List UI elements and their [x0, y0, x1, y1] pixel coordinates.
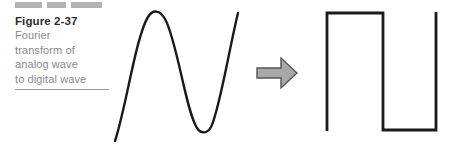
figure-caption-block: Figure 2-37 Fourier transform of analog …: [15, 2, 113, 90]
caption-line-3: analog wave: [15, 57, 113, 72]
caption-underline: [15, 89, 109, 90]
decorative-bars: [15, 2, 113, 9]
analog-sine-wave-path: [115, 12, 238, 141]
decorative-bar-1: [15, 2, 42, 8]
caption-line-4: to digital wave: [15, 72, 113, 87]
decorative-bar-3: [71, 2, 102, 8]
transform-arrow-icon: [257, 58, 297, 88]
caption-line-2: transform of: [15, 43, 113, 58]
decorative-bar-2: [47, 2, 66, 8]
figure-number-label: Figure 2-37: [15, 14, 113, 28]
caption-line-1: Fourier: [15, 28, 113, 43]
figure-container: Figure 2-37 Fourier transform of analog …: [0, 0, 456, 145]
digital-square-wave-path: [327, 12, 436, 131]
